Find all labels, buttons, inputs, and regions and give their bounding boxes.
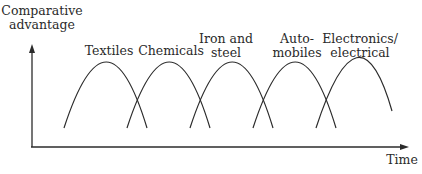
label-textiles: Textiles bbox=[85, 44, 134, 58]
label-chemicals: Chemicals bbox=[138, 44, 204, 58]
curve-automobiles bbox=[253, 62, 336, 128]
label-electronics: Electronics/ electrical bbox=[322, 32, 398, 60]
x-axis-label: Time bbox=[386, 153, 418, 167]
label-chemicals-line1: Chemicals bbox=[138, 44, 204, 58]
label-iron-steel: Iron and steel bbox=[199, 32, 253, 60]
x-axis-arrow-icon bbox=[400, 144, 409, 150]
y-axis-label: Comparative advantage bbox=[1, 4, 82, 32]
label-automobiles: Auto- mobiles bbox=[272, 32, 321, 60]
curve-iron-steel bbox=[190, 62, 273, 128]
label-electronics-line2: electrical bbox=[322, 46, 398, 60]
y-axis-label-line2: advantage bbox=[1, 18, 82, 32]
label-electronics-line1: Electronics/ bbox=[322, 32, 398, 46]
curve-textiles bbox=[64, 62, 147, 128]
curve-electronics bbox=[316, 57, 392, 128]
label-iron-steel-line2: steel bbox=[199, 46, 253, 60]
label-automobiles-line1: Auto- bbox=[272, 32, 321, 46]
label-iron-steel-line1: Iron and bbox=[199, 32, 253, 46]
label-automobiles-line2: mobiles bbox=[272, 46, 321, 60]
y-axis-arrow-icon bbox=[29, 44, 35, 53]
y-axis-label-line1: Comparative bbox=[1, 4, 82, 18]
label-textiles-line1: Textiles bbox=[85, 44, 134, 58]
curve-chemicals bbox=[127, 62, 210, 128]
